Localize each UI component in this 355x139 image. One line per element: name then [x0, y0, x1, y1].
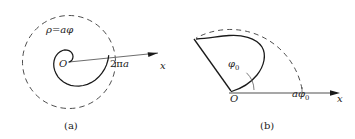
panel-a-graphics — [23, 16, 159, 109]
panel-a-radius-label: 2πa — [110, 59, 129, 69]
panel-a-x-axis-arrowhead — [148, 52, 158, 57]
panel-a-equation-label: ρ=aφ — [46, 25, 73, 35]
panel-b-angle-label: φ0 — [228, 59, 239, 72]
panel-a-x-axis-label: x — [160, 61, 166, 71]
panel-b-caption: (b) — [260, 120, 274, 131]
panel-b-graphics — [194, 29, 340, 95]
panel-a-caption: (a) — [64, 120, 78, 131]
panel-a-origin-label: O — [59, 59, 67, 69]
figure-container: ρ=aφ O 2πa x φ0 O aφ0 x (a) (b) — [0, 0, 355, 139]
panel-b-radial-side — [194, 39, 231, 91]
figure-svg — [0, 0, 355, 139]
panel-b-origin-label: O — [230, 94, 238, 104]
panel-b-radius-label: aφ0 — [292, 89, 309, 102]
panel-b-x-axis-label: x — [337, 94, 343, 104]
